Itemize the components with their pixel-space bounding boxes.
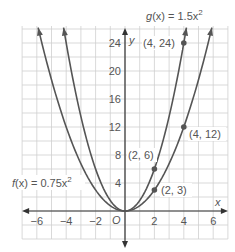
- point-label-4-12: (4, 12): [189, 128, 221, 140]
- x-axis-arrow-right-icon: [221, 208, 228, 214]
- point-label-2-3: (2, 3): [161, 184, 187, 196]
- x-tick-label: 2: [151, 215, 157, 227]
- x-tick-label: 4: [181, 215, 187, 227]
- y-tick-label: 24: [109, 37, 121, 49]
- f-function-label: f(x) = 0.75x2: [12, 175, 72, 189]
- y-tick-label: 12: [109, 121, 121, 133]
- y-tick-label: 16: [109, 93, 121, 105]
- x-tick-label: −2: [89, 215, 102, 227]
- origin-label: O: [112, 214, 121, 226]
- x-axis-arrow-left-icon: [22, 208, 29, 214]
- x-axis-label: x: [214, 196, 221, 208]
- y-tick-label: 4: [115, 177, 121, 189]
- g-function-label: g(x) = 1.5x2: [146, 8, 203, 22]
- y-tick-label: 8: [115, 149, 121, 161]
- x-tick-label: −6: [31, 215, 44, 227]
- point-label-2-6: (2, 6): [128, 149, 154, 161]
- y-axis-arrow-down-icon: [122, 241, 128, 248]
- x-tick-label: −4: [60, 215, 73, 227]
- parabola-chart: −6−4−22464812162024 y x O g(x) = 1.5x2 f…: [0, 0, 235, 252]
- y-tick-label: 20: [109, 65, 121, 77]
- y-axis-label: y: [128, 34, 136, 46]
- point-label-4-24: (4, 24): [143, 37, 175, 49]
- data-point: [181, 40, 187, 46]
- data-point: [181, 124, 187, 130]
- data-point: [152, 187, 158, 193]
- data-point: [152, 166, 158, 172]
- x-tick-label: 6: [210, 215, 216, 227]
